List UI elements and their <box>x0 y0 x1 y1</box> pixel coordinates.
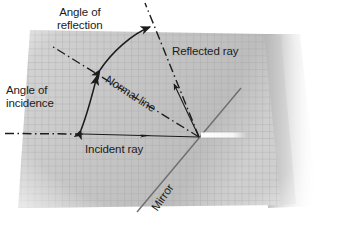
label-incident-ray: Incident ray <box>85 143 143 156</box>
label-angle-of-reflection: Angle of reflection <box>57 6 103 31</box>
reflection-diagram: Angle of reflection Angle of incidence R… <box>0 0 338 237</box>
label-reflected-ray: Reflected ray <box>172 45 238 58</box>
paper-sheet <box>18 30 318 208</box>
specular-highlight <box>201 133 247 138</box>
paper-grid <box>18 30 283 208</box>
label-angle-of-incidence: Angle of incidence <box>6 84 54 109</box>
incident-ray-extension <box>5 134 83 135</box>
diagram-canvas <box>0 0 338 237</box>
